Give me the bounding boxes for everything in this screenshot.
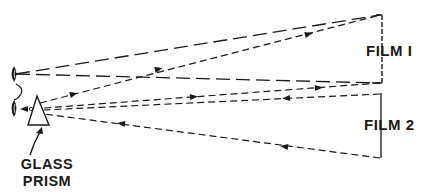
glass-prism-label-line2: PRISM <box>17 173 77 190</box>
lower-eye-icon <box>12 100 17 117</box>
ray-film2-top-to-prism <box>44 94 380 110</box>
prism-contact-point <box>29 107 32 110</box>
ray-prism-to-film1-bottom <box>44 83 380 108</box>
upper-eye-icon <box>12 66 17 82</box>
ray-prism-to-film1-top <box>40 15 380 103</box>
glass-prism-label-line1: GLASS <box>17 156 77 173</box>
glass-prism-label: GLASS PRISM <box>17 156 77 190</box>
film-1-label: FILM I <box>366 42 412 59</box>
prism-pointer-arrowhead <box>36 127 43 134</box>
ray-film2-bottom-to-prism <box>44 114 380 158</box>
eyes-connector <box>14 84 22 100</box>
ray-eye-to-film1-bottom <box>16 74 380 83</box>
film-2-label: FILM 2 <box>364 116 415 133</box>
ray-eye-to-film1-top <box>16 15 380 74</box>
prism-pointer-arrow <box>30 130 41 155</box>
